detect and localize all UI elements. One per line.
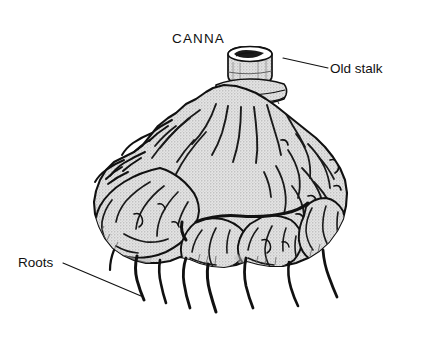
old-stalk-label: Old stalk bbox=[330, 61, 383, 76]
figure-title: CANNA bbox=[172, 31, 225, 46]
canna-rhizome-illustration: CANNA Old stalk Roots bbox=[0, 0, 437, 341]
roots-label: Roots bbox=[18, 255, 54, 270]
figure-root: CANNA Old stalk Roots bbox=[0, 0, 437, 341]
